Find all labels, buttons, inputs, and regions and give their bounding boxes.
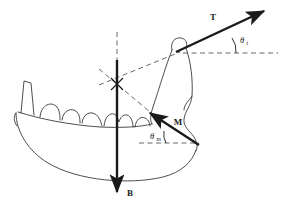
inferior-border	[16, 113, 196, 181]
angle-theta-t-arc	[232, 38, 236, 53]
angle-theta-m-subscript: m	[157, 136, 162, 142]
vector-bite: B	[117, 60, 133, 198]
tooth-premolar-1	[40, 104, 60, 120]
ramus-anterior-border	[151, 50, 172, 124]
teeth-group	[21, 81, 150, 127]
vector-tension-shaft	[176, 11, 264, 52]
vector-bite-label: B	[127, 188, 133, 198]
pivot-to-muscle-dashed	[99, 69, 150, 112]
pivot-to-condyle-dashed	[99, 52, 180, 85]
tooth-molar-2	[104, 114, 133, 127]
vector-muscle-label: M	[174, 117, 183, 127]
angle-theta-m-arc	[164, 131, 166, 143]
angle-theta-t-subscript: t	[247, 40, 249, 46]
angle-theta-m-label: θ	[150, 131, 154, 141]
angle-theta-t-label: θ	[240, 35, 244, 45]
vector-tension-label: T	[210, 12, 216, 22]
vector-muscle: M θ m	[150, 113, 199, 145]
tooth-molar-1	[82, 113, 102, 126]
reference-lines-group	[99, 32, 278, 143]
tooth-canine	[21, 81, 34, 115]
mandible-force-diagram: T θ t M θ m B	[0, 0, 294, 208]
tooth-premolar-2	[62, 110, 80, 123]
vector-tension: T θ t	[176, 11, 264, 53]
